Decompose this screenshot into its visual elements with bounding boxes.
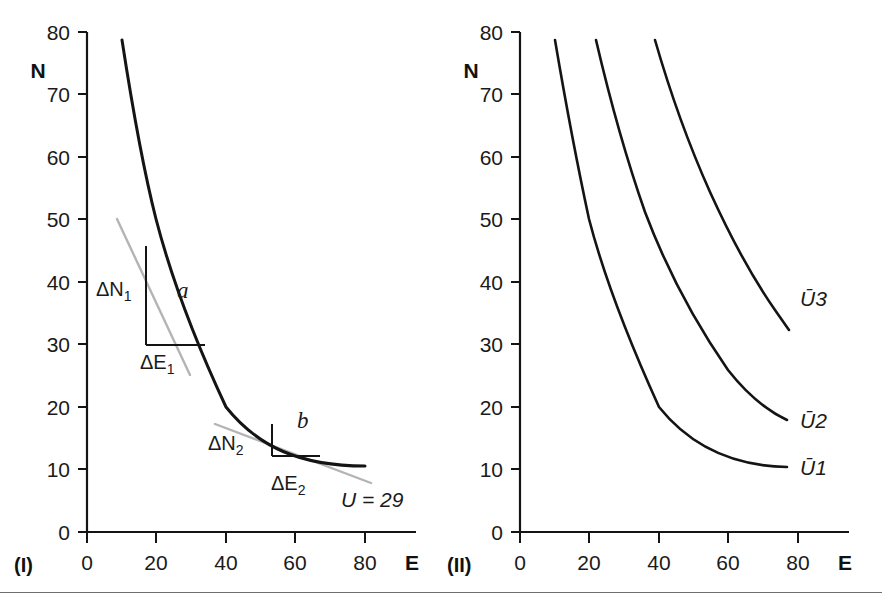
panel-2-ytick-30: 30 [480,333,503,356]
panel-1-xtick-60: 60 [283,551,306,574]
panel-1-xtick-0: 0 [81,551,93,574]
panel-1-ytick-50: 50 [47,208,70,231]
panel-1-ytick-70: 70 [47,83,70,106]
panel-1-delta-n2-label: ΔN2 [208,432,244,458]
panel-2-xtick-60: 60 [716,551,739,574]
panel-2-ytick-80: 80 [480,21,503,44]
panel-1-ytick-20: 20 [47,396,70,419]
panel-1-delta-n1-label: ΔN1 [96,278,132,304]
panel-1-indifference-curve [122,40,365,466]
panel-1-delta-e1-label: ΔE1 [140,351,175,377]
panel-2-curve-u2 [596,40,787,420]
panel-2-xtick-40: 40 [647,551,670,574]
panel-1-point-b-label: b [297,408,309,433]
panel-2-ytick-10: 10 [480,458,503,481]
panel-1-xtick-80: 80 [353,551,376,574]
panel-1-y-axis-label: N [30,59,45,82]
panel-2-xtick-0: 0 [514,551,526,574]
indifference-curves-figure: 80 70 60 50 40 30 20 10 0 N 0 20 40 60 [0,0,882,607]
panel-2-ytick-70: 70 [480,83,503,106]
panel-1-ytick-0: 0 [58,521,70,544]
panel-2-curve-u1 [555,40,787,467]
panel-2-curve-label-u1: Ū1 [800,456,827,479]
panel-1-y-ticks [78,32,87,532]
bottom-divider [0,592,882,593]
panel-1-ytick-80: 80 [47,21,70,44]
panel-1-ytick-40: 40 [47,271,70,294]
panel-2-name: (II) [447,554,471,576]
panel-2-ytick-0: 0 [491,521,503,544]
panel-2-xtick-20: 20 [577,551,600,574]
panel-1-name: (I) [14,554,33,576]
panel-2-group: 80 70 60 50 40 30 20 10 0 N 0 20 40 60 [447,21,852,576]
panel-2-ytick-50: 50 [480,208,503,231]
panel-1-group: 80 70 60 50 40 30 20 10 0 N 0 20 40 60 [14,21,419,576]
panel-1-slope-triangle-1 [146,246,205,345]
panel-2-y-ticks [511,32,520,532]
panel-2-ytick-40: 40 [480,271,503,294]
panel-1-delta-e2-label: ΔE2 [271,472,306,498]
panel-2-curve-label-u2: Ū2 [800,409,827,432]
panel-1-xtick-20: 20 [144,551,167,574]
panel-2-ytick-60: 60 [480,146,503,169]
panel-2-curve-u3 [655,40,789,330]
panel-2-ytick-20: 20 [480,396,503,419]
panel-2-x-axis-label: E [838,551,852,574]
panel-2-y-axis-label: N [463,59,478,82]
panel-1-ytick-30: 30 [47,333,70,356]
panel-1-xtick-40: 40 [214,551,237,574]
panel-1-x-ticks [87,532,365,543]
panel-2-x-ticks [520,532,798,543]
panel-2-curve-label-u3: Ū3 [800,287,827,310]
panel-1-ytick-60: 60 [47,146,70,169]
panel-1-point-a-label: a [177,278,189,303]
panel-2-xtick-80: 80 [786,551,809,574]
panel-1-x-axis-label: E [405,551,419,574]
panel-1-ytick-10: 10 [47,458,70,481]
figure-root: 80 70 60 50 40 30 20 10 0 N 0 20 40 60 [0,0,882,607]
panel-1-utility-label: U = 29 [341,488,404,511]
